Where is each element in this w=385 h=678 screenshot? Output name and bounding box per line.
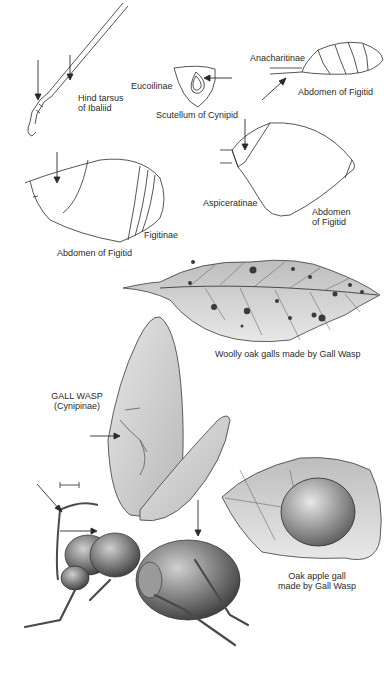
label-line: of Ibaliid [78,103,124,113]
arrow-icon [54,152,60,183]
label-line: made by Gall Wasp [277,581,357,591]
oak-apple-caption: Oak apple gall made by Gall Wasp [277,571,357,591]
gall-wasp-subtitle: (Cynipinae) [44,401,110,411]
aspiceratinae-label: Aspiceratinae [203,198,258,208]
label-line: Abdomen [312,207,351,217]
scutellum-drawing [174,66,215,107]
hind-tarsus-drawing [28,3,128,136]
abdomen-figitid-top-label: Abdomen of Figitid [298,87,373,97]
woolly-galls-caption: Woolly oak galls made by Gall Wasp [215,349,361,359]
hind-tarsus-label: Hind tarsus of Ibaliid [78,93,124,113]
figitinae-label: Figitinae [144,230,178,240]
label-line: Oak apple gall [277,571,357,581]
eucoilinae-label: Eucoilinae [131,81,173,91]
arrow-icon [90,433,120,439]
label-line: of Figitid [312,217,351,227]
scutellum-label: Scutellum of Cynipid [156,110,238,120]
gall-wasp-wings [108,317,230,521]
abdomen-figitid-left-label: Abdomen of Figitid [57,248,132,258]
gall-wasp-caption: GALL WASP (Cynipinae) [44,391,110,411]
arrow-icon [204,75,232,81]
gall-wasp-title: GALL WASP [44,391,110,401]
anacharitinae-label: Anacharitinae [250,53,305,63]
gall-wasp-body [25,503,248,645]
abdomen-figitid-right-label: Abdomen of Figitid [312,207,351,227]
label-line: Hind tarsus [78,93,124,103]
oak-apple-gall-drawing [222,458,381,560]
arrow-icon [262,78,286,100]
scale-bar [60,482,79,488]
